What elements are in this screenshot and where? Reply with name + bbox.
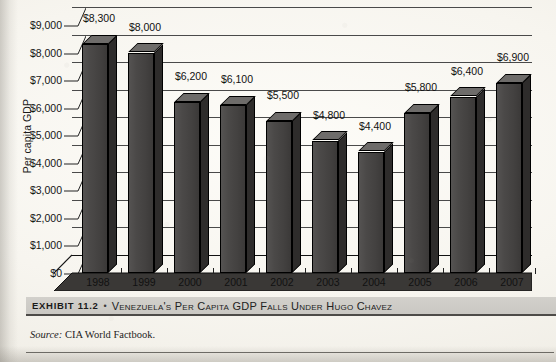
bar-column [266,121,292,273]
x-axis-tick-mark [535,268,536,274]
bar-side-face [522,74,531,273]
x-axis-tick-mark [121,268,122,274]
bar-front-face [496,83,522,273]
x-axis-tick-label: 2001 [224,276,247,288]
bar-value-label: $5,800 [405,81,437,93]
y-axis-tick-label: $1,000 [16,239,62,251]
x-axis-tick-mark [305,268,306,274]
bar-side-face [476,88,485,273]
x-axis-tick-labels: 1998199920002001200220032004200520062007 [72,276,550,294]
y-axis-tick-label: $9,000 [16,19,62,31]
bar-front-face [450,97,476,273]
x-axis-tick-label: 2004 [362,276,385,288]
y-axis-tick-label: $2,000 [16,212,62,224]
x-axis-tick-label: 2007 [500,276,523,288]
source-note: Source: CIA World Factbook. [30,329,155,340]
y-axis-tick-label: $4,000 [16,157,62,169]
bar-value-label: $6,400 [451,65,483,77]
bar-side-face [200,93,209,273]
x-axis-tick-label: 1999 [132,276,155,288]
bar-side-face [246,96,255,273]
x-axis-tick-label: 2006 [454,276,477,288]
bar-value-label: $6,100 [221,73,253,85]
bar-front-face [266,121,292,273]
bar-column [174,102,200,273]
bar-column [404,113,430,273]
bar-front-face [404,113,430,273]
x-axis-tick-mark [351,268,352,274]
source-label: Source: [30,329,62,340]
y-axis-tick-label: $0 [16,267,62,279]
bar-column [312,141,338,273]
caption-bullet-icon: • [103,301,106,311]
source-text: CIA World Factbook. [65,329,155,340]
bar-front-face [82,44,108,273]
x-axis-tick-mark [397,268,398,274]
x-axis-tick-mark [259,268,260,274]
x-axis-tick-mark [443,268,444,274]
chart-figure: Per capita GDP $0$1,000$2,000$3,000$4,00… [0,0,556,292]
exhibit-caption-bar: EXHIBIT 11.2 • Venezuela's Per Capita GD… [26,297,556,316]
bar-front-face [174,102,200,273]
bar-value-label: $6,900 [497,51,529,63]
y-axis-tick-label: $7,000 [16,74,62,86]
exhibit-number: EXHIBIT 11.2 [32,300,98,311]
y-axis-tick-label: $5,000 [16,129,62,141]
x-axis-tick-mark [167,268,168,274]
x-axis-tick-mark [213,268,214,274]
y-axis-tick-label: $3,000 [16,184,62,196]
bar-side-face [430,104,439,273]
x-axis-tick-label: 2003 [316,276,339,288]
x-axis-tick-label: 2005 [408,276,431,288]
bar-series: $8,300$8,000$6,200$6,100$5,500$4,800$4,4… [72,25,532,273]
x-axis-tick-label: 2000 [178,276,201,288]
bar-side-face [384,143,393,273]
bar-side-face [154,44,163,273]
bar-column [220,105,246,273]
scan-gutter-shadow-bottom [0,346,556,362]
x-axis-tick-mark [489,268,490,274]
bar-column [82,44,108,273]
bar-front-face [358,152,384,273]
page-bottom-rule [26,352,554,353]
bar-front-face [312,141,338,273]
bar-value-label: $8,000 [129,21,161,33]
bar-column [496,83,522,273]
y-axis-tick-label: $8,000 [16,47,62,59]
plot-area: $8,300$8,000$6,200$6,100$5,500$4,800$4,4… [72,25,532,273]
y-axis-tick-label: $6,000 [16,102,62,114]
bar-side-face [338,132,347,273]
x-axis-tick-label: 2002 [270,276,293,288]
bar-value-label: $4,800 [313,109,345,121]
bar-side-face [108,35,117,273]
bar-value-label: $8,300 [83,12,115,24]
bar-value-label: $4,400 [359,120,391,132]
bar-column [450,97,476,273]
exhibit-title: Venezuela's Per Capita GDP Falls Under H… [112,300,393,312]
y-axis-tick-labels: $0$1,000$2,000$3,000$4,000$5,000$6,000$7… [16,0,62,292]
scanned-page: Per capita GDP $0$1,000$2,000$3,000$4,00… [0,0,556,362]
gridline [72,7,532,8]
bar-column [358,152,384,273]
bar-value-label: $6,200 [175,70,207,82]
bar-front-face [220,105,246,273]
x-axis-tick-label: 1998 [86,276,109,288]
bar-front-face [128,53,154,273]
bar-column [128,53,154,273]
bar-side-face [292,112,301,273]
bar-value-label: $5,500 [267,89,299,101]
